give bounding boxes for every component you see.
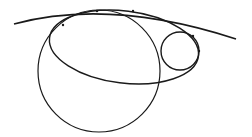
tangent-point xyxy=(96,10,98,12)
diagram-canvas xyxy=(0,0,252,137)
top-tangent-curve xyxy=(14,14,236,39)
tangent-point xyxy=(62,24,64,26)
tangent-point xyxy=(198,50,200,52)
tangent-curves-diagram xyxy=(0,0,252,137)
large-circle xyxy=(38,10,160,132)
tangent-point xyxy=(132,10,134,12)
tangent-point xyxy=(192,35,194,37)
small-circle xyxy=(161,32,199,70)
